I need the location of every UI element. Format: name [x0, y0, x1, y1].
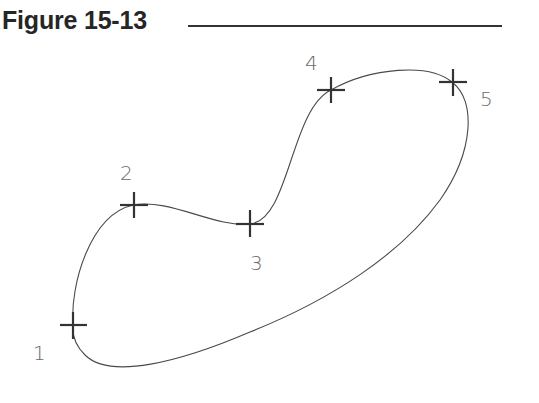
point-label-3: 3: [250, 251, 263, 275]
point-marker-4: [317, 77, 345, 103]
point-label-5: 5: [480, 87, 493, 111]
spline-drawing: 1 2 3 4 5: [0, 0, 539, 403]
closed-spline-curve: [73, 70, 468, 367]
point-label-1: 1: [33, 341, 46, 365]
point-marker-2: [120, 192, 148, 218]
point-label-2: 2: [120, 161, 133, 185]
point-marker-3: [236, 210, 264, 237]
point-label-4: 4: [305, 51, 318, 75]
point-marker-1: [60, 312, 87, 339]
point-marker-5: [439, 69, 467, 96]
